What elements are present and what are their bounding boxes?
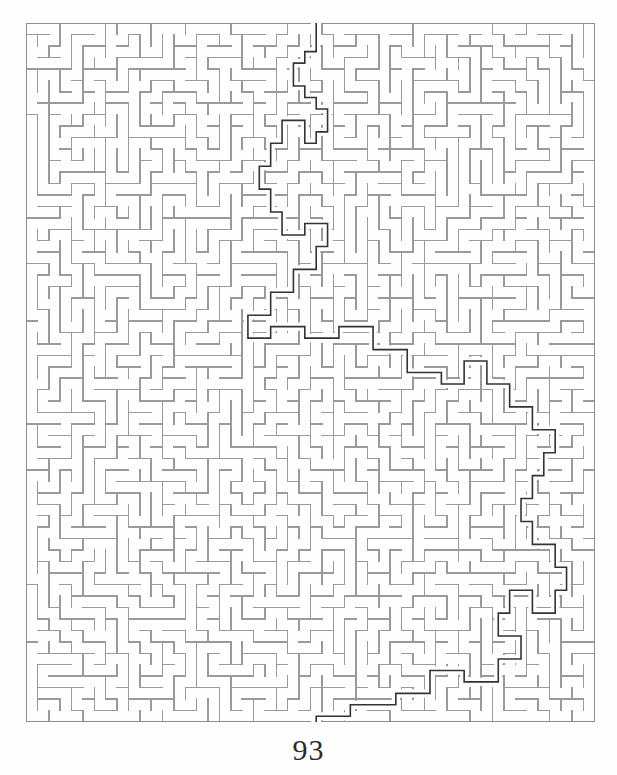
page-canvas: Rectangular maze puzzle, 50 columns by 6… xyxy=(0,0,617,775)
maze-figure[interactable]: Rectangular maze puzzle, 50 columns by 6… xyxy=(26,23,595,722)
maze-solution-path xyxy=(248,23,567,722)
solution-trace xyxy=(248,23,567,722)
maze-svg-canvas[interactable] xyxy=(26,23,595,722)
page-number: 93 xyxy=(0,733,617,767)
